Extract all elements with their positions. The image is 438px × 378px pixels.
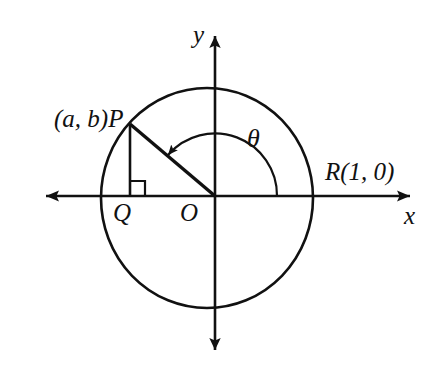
figure-canvas	[0, 0, 438, 378]
origin-label: O	[180, 200, 198, 225]
right-angle-marker	[130, 181, 145, 196]
point-r-label: R(1, 0)	[325, 159, 394, 184]
unit-circle	[101, 88, 313, 308]
point-p-label: (a, b)P	[54, 106, 123, 131]
theta-angle-label: θ	[247, 126, 260, 152]
y-axis-label: y	[193, 22, 204, 47]
unit-circle-figure: y x θ (a, b)P Q O R(1, 0)	[0, 0, 438, 378]
point-q-label: Q	[113, 200, 131, 225]
angle-arc	[168, 133, 277, 196]
x-axis-label: x	[404, 203, 415, 228]
